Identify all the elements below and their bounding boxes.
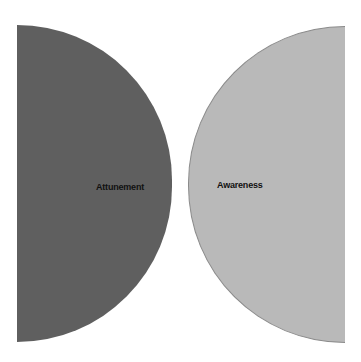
attunement-half-disk [17, 25, 172, 342]
attunement-label: Attunement [96, 182, 144, 192]
awareness-half-disk [188, 26, 345, 343]
awareness-label: Awareness [217, 180, 263, 190]
